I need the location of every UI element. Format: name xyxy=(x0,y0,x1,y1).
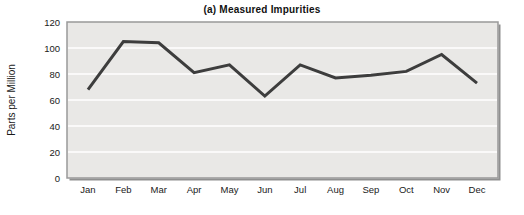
y-tick-label: 120 xyxy=(44,17,60,28)
x-tick-label: May xyxy=(220,184,238,195)
x-tick-label: Dec xyxy=(469,184,486,195)
y-tick-label: 20 xyxy=(49,147,60,158)
x-tick-label: Nov xyxy=(433,184,450,195)
y-tick-label: 60 xyxy=(49,95,60,106)
x-tick-label: Apr xyxy=(187,184,202,195)
y-tick-label: 100 xyxy=(44,43,60,54)
y-tick-label: 0 xyxy=(55,173,60,184)
x-tick-label: Feb xyxy=(115,184,131,195)
impurities-line-chart-figure: (a) Measured Impurities Parts per Millio… xyxy=(0,0,524,215)
x-tick-label: Sep xyxy=(362,184,379,195)
y-tick-label: 40 xyxy=(49,121,60,132)
x-tick-label: Jan xyxy=(80,184,95,195)
x-tick-label: Oct xyxy=(399,184,414,195)
line-chart-plot: 020406080100120JanFebMarAprMayJunJulAugS… xyxy=(0,0,524,215)
x-tick-label: Jun xyxy=(257,184,272,195)
y-tick-label: 80 xyxy=(49,69,60,80)
x-tick-label: Aug xyxy=(327,184,344,195)
x-tick-label: Mar xyxy=(151,184,167,195)
x-tick-label: Jul xyxy=(294,184,306,195)
